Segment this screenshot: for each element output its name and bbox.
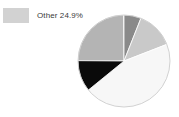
pie-chart-figure: Other 24.9% <box>0 0 179 117</box>
chart-legend: Other 24.9% <box>3 8 83 23</box>
legend-item-label: Other 24.9% <box>37 11 83 21</box>
legend-swatch-icon <box>3 8 29 23</box>
legend-item-other: Other 24.9% <box>3 8 83 23</box>
pie-slice-group <box>78 15 170 107</box>
pie-slice <box>78 15 124 61</box>
